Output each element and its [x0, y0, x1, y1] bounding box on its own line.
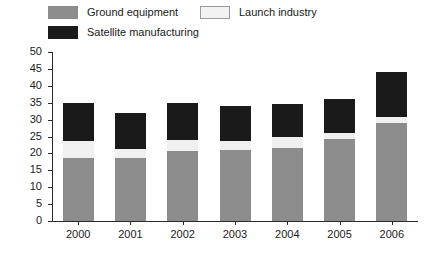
bar-segment-satellite-manufacturing-2003 — [220, 106, 251, 141]
revenue-stacked-bar-chart: Ground equipment Launch industry Satelli… — [0, 0, 426, 254]
y-tick-mark — [48, 221, 52, 222]
black-swatch-icon — [48, 26, 78, 39]
bar-2005 — [324, 52, 355, 221]
bar-segment-launch-industry-2006 — [376, 117, 407, 123]
bar-segment-ground-equipment-2002 — [167, 151, 198, 221]
bar-segment-satellite-manufacturing-2004 — [272, 104, 303, 137]
legend-item-launch-industry: Launch industry — [200, 6, 317, 19]
bar-segment-ground-equipment-2000 — [63, 158, 94, 221]
y-tick-label: 0 — [36, 214, 42, 226]
bar-segment-launch-industry-2000 — [63, 141, 94, 159]
y-tick-label: 25 — [30, 130, 42, 142]
y-tick-label: 5 — [36, 197, 42, 209]
legend-item-ground-equipment: Ground equipment — [48, 6, 178, 19]
y-tick-label: 50 — [30, 45, 42, 57]
x-axis-label-2004: 2004 — [262, 228, 312, 241]
y-tick-label: 40 — [30, 79, 42, 91]
bar-2000 — [63, 52, 94, 221]
bar-segment-launch-industry-2001 — [115, 149, 146, 158]
x-axis-label-2005: 2005 — [315, 228, 365, 241]
bar-2003 — [220, 52, 251, 221]
bar-segment-launch-industry-2002 — [167, 140, 198, 151]
x-tick-mark — [340, 221, 341, 225]
legend-label-launch-industry: Launch industry — [239, 6, 317, 19]
legend-label-ground-equipment: Ground equipment — [87, 6, 178, 19]
y-tick-label: 15 — [30, 163, 42, 175]
x-tick-mark — [392, 221, 393, 225]
white-swatch-icon — [200, 6, 230, 19]
bar-segment-ground-equipment-2001 — [115, 158, 146, 221]
bar-segment-ground-equipment-2005 — [324, 139, 355, 221]
bar-2002 — [167, 52, 198, 221]
grey-swatch-icon — [48, 6, 78, 19]
x-tick-mark — [235, 221, 236, 225]
bar-segment-satellite-manufacturing-2000 — [63, 103, 94, 141]
bar-segment-ground-equipment-2004 — [272, 148, 303, 221]
x-tick-mark — [78, 221, 79, 225]
bar-segment-satellite-manufacturing-2006 — [376, 72, 407, 117]
bar-segment-launch-industry-2003 — [220, 141, 251, 150]
legend-item-satellite-manufacturing: Satellite manufacturing — [48, 26, 199, 39]
y-tick-label: 20 — [30, 146, 42, 158]
x-axis-label-2001: 2001 — [105, 228, 155, 241]
bar-segment-satellite-manufacturing-2001 — [115, 113, 146, 149]
bar-segment-ground-equipment-2003 — [220, 150, 251, 221]
y-tick-label: 10 — [30, 180, 42, 192]
x-axis-label-2006: 2006 — [367, 228, 417, 241]
bar-segment-satellite-manufacturing-2002 — [167, 103, 198, 140]
x-tick-mark — [287, 221, 288, 225]
plot-area — [52, 52, 418, 221]
x-axis-label-2003: 2003 — [210, 228, 260, 241]
x-tick-mark — [183, 221, 184, 225]
x-axis-label-2000: 2000 — [53, 228, 103, 241]
bar-2004 — [272, 52, 303, 221]
legend-label-satellite-manufacturing: Satellite manufacturing — [87, 26, 199, 39]
chart-legend: Ground equipment Launch industry Satelli… — [0, 0, 426, 48]
bar-segment-satellite-manufacturing-2005 — [324, 99, 355, 132]
bar-segment-launch-industry-2004 — [272, 137, 303, 148]
y-tick-label: 30 — [30, 113, 42, 125]
bar-segment-launch-industry-2005 — [324, 133, 355, 139]
y-tick-label: 45 — [30, 62, 42, 74]
x-tick-mark — [130, 221, 131, 225]
x-axis-label-2002: 2002 — [158, 228, 208, 241]
bar-2006 — [376, 52, 407, 221]
bar-segment-ground-equipment-2006 — [376, 123, 407, 221]
y-tick-label: 35 — [30, 96, 42, 108]
bar-2001 — [115, 52, 146, 221]
